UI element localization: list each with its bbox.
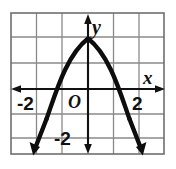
y-axis-label: y [90, 16, 101, 39]
parabola-figure: y x O -2 2 -2 [0, 0, 176, 169]
origin-label: O [68, 92, 81, 112]
x-tick-label-negative-two: -2 [17, 93, 34, 114]
coordinate-graph: y x O -2 2 -2 [0, 0, 176, 169]
x-tick-label-positive-two: 2 [132, 93, 143, 114]
x-axis-label: x [142, 67, 153, 88]
y-tick-label-negative-two: -2 [54, 128, 71, 149]
